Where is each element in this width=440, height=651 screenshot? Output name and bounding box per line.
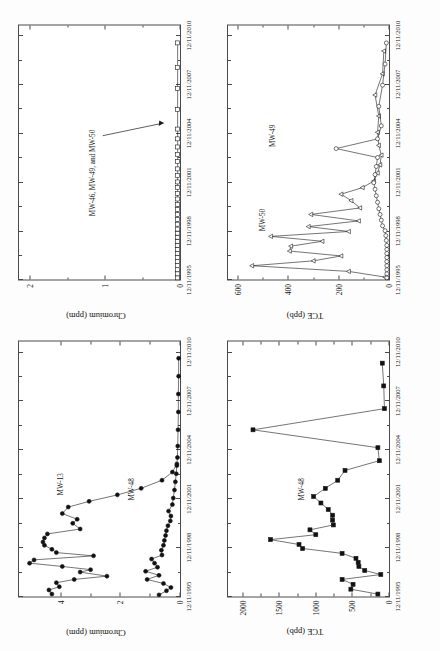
data-point <box>170 502 174 506</box>
data-point <box>145 577 149 581</box>
data-point <box>170 470 174 474</box>
data-point <box>377 458 381 462</box>
data-point <box>349 587 353 591</box>
x-tick-label: 12/11/2007 <box>389 386 401 416</box>
data-point <box>32 557 36 561</box>
series-line-MW-50 <box>252 51 385 277</box>
data-point <box>351 582 355 586</box>
figure-panel-grid: Chromium (ppm) 02412/11/199512/11/199812… <box>0 0 440 651</box>
data-point <box>314 532 318 536</box>
data-point <box>176 444 180 448</box>
x-tick-label: 12/11/1998 <box>180 532 192 562</box>
series-annotation-label: MW-13 <box>57 473 65 495</box>
data-point <box>50 547 54 551</box>
data-point <box>47 587 51 591</box>
data-point <box>161 581 165 585</box>
y-tick-label: 500 <box>348 596 357 611</box>
data-point <box>340 551 344 555</box>
data-point <box>157 573 161 577</box>
x-tick-label: 12/11/2010 <box>389 20 401 50</box>
series-annotation-label: MW-50 <box>259 208 267 230</box>
data-point <box>160 553 164 557</box>
data-point <box>378 212 382 216</box>
data-point <box>385 243 389 247</box>
data-point <box>173 479 177 483</box>
data-point <box>45 531 49 535</box>
series-annotation-label: MW-48 <box>298 478 306 500</box>
data-point <box>54 580 58 584</box>
data-point <box>376 156 380 160</box>
plot-area-chromium-right: 01212/11/199512/11/199812/11/200112/11/2… <box>18 24 181 281</box>
x-tick-label: 12/11/2010 <box>180 20 192 50</box>
data-point <box>60 564 64 568</box>
data-point <box>164 533 168 537</box>
data-point <box>384 234 388 238</box>
data-point <box>379 572 383 576</box>
data-point <box>334 147 338 151</box>
data-point <box>160 478 164 482</box>
data-point <box>384 238 388 242</box>
data-point <box>323 486 327 490</box>
data-point <box>251 427 255 431</box>
x-tick-label: 12/11/1995 <box>180 581 192 611</box>
series-annotation-label: MW-49 <box>269 124 277 146</box>
y-tick-label: 2 <box>26 280 35 288</box>
data-point <box>384 41 388 45</box>
data-point <box>379 218 383 222</box>
data-point <box>363 568 367 572</box>
data-point <box>28 561 32 565</box>
x-tick-label: 12/11/2001 <box>180 483 192 513</box>
data-point <box>343 468 347 472</box>
data-point <box>339 254 343 258</box>
x-tick-label: 12/11/1995 <box>389 265 401 295</box>
x-tick-label: 12/11/2001 <box>389 483 401 513</box>
data-point <box>349 198 353 202</box>
data-point <box>360 185 364 189</box>
data-point <box>320 239 324 243</box>
data-point <box>346 229 350 233</box>
data-point <box>169 514 173 518</box>
data-point <box>269 234 273 238</box>
panel-chromium-mw13-mw48: Chromium (ppm) 02412/11/199512/11/199812… <box>10 331 215 638</box>
series-line-MW-49 <box>336 43 387 278</box>
data-point <box>269 537 273 541</box>
data-point <box>250 264 254 268</box>
series-layer <box>19 342 180 597</box>
scanned-page: Chromium (ppm) 02412/11/199512/11/199812… <box>0 0 440 651</box>
data-point <box>157 592 161 596</box>
y-axis-label: Chromium (ppm) <box>10 625 181 639</box>
data-point <box>92 553 96 557</box>
data-point <box>354 556 358 560</box>
data-point <box>139 486 143 490</box>
data-point <box>287 249 291 253</box>
data-point <box>169 585 173 589</box>
data-point <box>383 62 387 66</box>
annotation-arrow <box>19 25 180 280</box>
y-tick-label: 600 <box>234 280 243 295</box>
data-point <box>75 517 79 521</box>
data-point <box>373 187 377 191</box>
data-point <box>175 455 179 459</box>
data-point <box>89 567 93 571</box>
y-tick-label: 1500 <box>275 596 284 615</box>
data-point <box>375 130 379 134</box>
panel-chromium-mw46-mw49-mw50: Chromium (ppm) 01212/11/199512/11/199812… <box>10 14 215 321</box>
data-point <box>383 229 387 233</box>
data-point <box>376 200 380 204</box>
data-point <box>54 550 58 554</box>
data-point <box>164 588 168 592</box>
data-point <box>78 570 82 574</box>
data-point <box>331 522 335 526</box>
data-point <box>377 104 381 108</box>
data-point <box>172 487 176 491</box>
y-tick-label: 4 <box>56 596 65 604</box>
data-point <box>177 374 181 378</box>
data-point <box>373 93 377 97</box>
x-tick-label: 12/11/2001 <box>180 167 192 197</box>
y-axis-label: TCE (ppb) <box>219 625 390 639</box>
data-point <box>346 269 350 273</box>
panel-tce-mw49-mw50: TCE (ppb) 020040060012/11/199512/11/1998… <box>219 14 424 321</box>
x-tick-label: 12/11/2004 <box>389 434 401 464</box>
data-point <box>331 513 335 517</box>
y-tick-label: 1000 <box>311 596 320 615</box>
